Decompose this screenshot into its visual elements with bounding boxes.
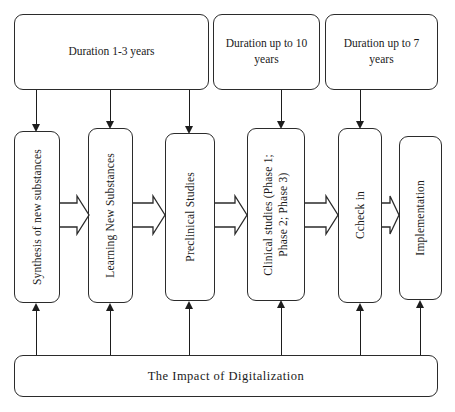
footer-bar-impact-of-digitalization: The Impact of Digitalization xyxy=(14,355,438,397)
connector-duration3-to-ccheckin xyxy=(360,90,361,123)
block-arrow-clinical-to-ccheckin xyxy=(305,196,339,234)
stage-box-ccheck-in: Ccheck in xyxy=(338,128,382,303)
block-arrow-ccheckin-to-implementation xyxy=(382,196,400,234)
connector-footer-to-preclinical xyxy=(189,309,190,355)
connector-duration1-to-synthesis xyxy=(36,90,37,126)
footer-bar-label: The Impact of Digitalization xyxy=(148,369,305,384)
flowchart-diagram: Duration 1-3 years Duration up to 10 yea… xyxy=(0,0,455,412)
arrowhead-footer-to-implementation xyxy=(416,300,424,308)
stage-box-preclinical-studies: Preclinical Studies xyxy=(165,133,215,301)
connector-footer-to-implementation xyxy=(420,308,421,355)
duration-box-up-to-10-years-label: Duration up to 10 years xyxy=(220,36,313,67)
stage-label-synthesis-of-new-substances: Synthesis of new substances xyxy=(30,149,45,285)
arrowhead-footer-to-learning xyxy=(106,303,114,311)
stage-label-learning-new-substances: Learning New Substances xyxy=(103,153,118,278)
stage-box-learning-new-substances: Learning New Substances xyxy=(88,128,133,303)
arrowhead-footer-to-ccheckin xyxy=(356,303,364,311)
block-arrow-synthesis-to-learning xyxy=(60,196,90,234)
block-arrow-learning-to-preclinical xyxy=(133,196,166,234)
block-arrow-preclinical-to-clinical xyxy=(215,196,248,234)
connector-footer-to-clinical xyxy=(281,308,282,355)
stage-box-synthesis-of-new-substances: Synthesis of new substances xyxy=(14,131,60,303)
stage-label-preclinical-studies: Preclinical Studies xyxy=(183,172,198,262)
connector-duration2-to-clinical xyxy=(281,90,282,123)
stage-box-implementation: Implementation xyxy=(399,136,442,300)
duration-box-1-3-years: Duration 1-3 years xyxy=(14,14,209,90)
duration-box-up-to-7-years-label: Duration up to 7 years xyxy=(332,36,431,67)
arrowhead-footer-to-synthesis xyxy=(32,303,40,311)
arrowhead-footer-to-clinical xyxy=(277,300,285,308)
connector-duration1-to-learning xyxy=(110,90,111,123)
connector-footer-to-ccheckin xyxy=(360,311,361,355)
connector-footer-to-learning xyxy=(110,311,111,355)
stage-box-clinical-studies: Clinical studies (Phase 1; Phase 2; Phas… xyxy=(247,128,305,301)
duration-box-up-to-7-years: Duration up to 7 years xyxy=(325,14,438,90)
arrowhead-footer-to-preclinical xyxy=(185,301,193,309)
duration-box-up-to-10-years: Duration up to 10 years xyxy=(213,14,320,90)
stage-label-clinical-studies: Clinical studies (Phase 1; Phase 2; Phas… xyxy=(261,154,291,276)
stage-label-implementation: Implementation xyxy=(413,180,428,256)
connector-footer-to-synthesis xyxy=(36,311,37,355)
connector-duration1-to-preclinical xyxy=(189,90,190,128)
stage-label-ccheck-in: Ccheck in xyxy=(353,191,368,239)
duration-box-1-3-years-label: Duration 1-3 years xyxy=(68,44,154,60)
